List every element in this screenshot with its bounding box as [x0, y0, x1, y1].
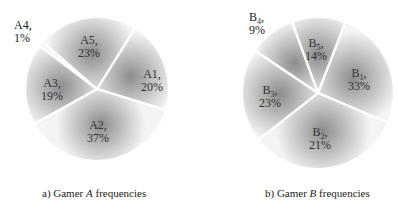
caption-gamer-b: b) Gamer B frequencies: [265, 187, 370, 199]
slice-label-a2: A2,37%: [87, 118, 109, 145]
slice-label-a3: A3,19%: [41, 76, 63, 103]
caption-gamer-a: a) Gamer A frequencies: [42, 187, 146, 199]
figure-canvas: A1,20% A2,37% A3,19% A4,1% A5,23% B1,33%…: [0, 0, 398, 212]
slice-label-a5: A5,23%: [78, 33, 100, 60]
slice-label-a4: A4,1%: [14, 18, 32, 45]
slice-label-a1: A1,20%: [141, 67, 163, 94]
slice-label-b4: B4,9%: [249, 10, 265, 37]
